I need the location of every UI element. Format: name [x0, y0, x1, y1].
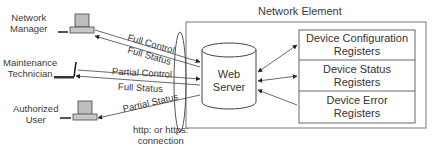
label-line: Registers: [299, 76, 415, 89]
label-line: Authorized: [13, 103, 58, 114]
web-server-label: Web Server: [202, 68, 256, 94]
label-line: User: [13, 114, 58, 125]
authorized-user-label: Authorized User: [13, 103, 58, 125]
label-line: Technician: [3, 68, 57, 79]
connection-ellipse: [174, 32, 186, 132]
label-line: Server: [202, 81, 256, 94]
network-element-title: Network Element: [258, 6, 342, 17]
network-manager-label: Network Manager: [10, 12, 48, 34]
label-line: Device Status: [299, 63, 415, 76]
label-line: Device Error: [299, 94, 415, 107]
device-error-registers: Device Error Registers: [299, 94, 415, 120]
link-label: Full Status: [118, 81, 163, 94]
error-arrow: [258, 90, 297, 105]
device-configuration-registers: Device Configuration Registers: [299, 32, 415, 58]
label-line: Network: [10, 12, 48, 23]
label-line: Device Configuration: [299, 32, 415, 45]
label-line: connection: [133, 135, 188, 146]
label-line: Registers: [299, 45, 415, 58]
connection-label: http: or https: connection: [133, 124, 188, 146]
label-line: http: or https:: [133, 124, 188, 135]
device-status-registers: Device Status Registers: [299, 63, 415, 89]
label-line: Registers: [299, 107, 415, 120]
label-line: Web: [202, 68, 256, 81]
maintenance-technician-label: Maintenance Technician: [3, 57, 57, 79]
desktop-computer-icon: [60, 101, 97, 120]
status-arrow: [258, 76, 297, 81]
desktop-computer-icon: [58, 14, 94, 33]
label-line: Maintenance: [3, 57, 57, 68]
config-arrow: [258, 45, 297, 72]
label-line: Manager: [10, 23, 48, 34]
